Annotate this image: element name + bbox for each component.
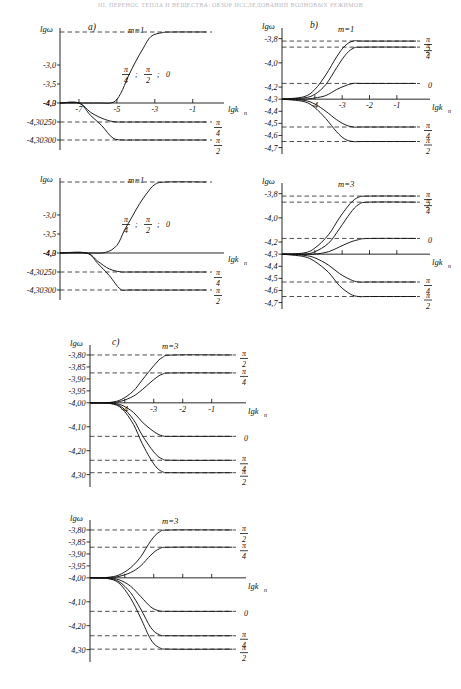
svg-text:π: π (426, 136, 431, 145)
svg-text:π: π (242, 524, 247, 533)
fraction-label: 0 (244, 609, 248, 618)
x-tick-label: -2 (366, 101, 373, 110)
svg-text:lgk: lgk (248, 581, 259, 591)
y-tick-label: 4,30 (71, 471, 85, 480)
fraction-label: π2 (214, 286, 222, 306)
fraction-label: π2 (424, 136, 432, 156)
svg-text:π: π (426, 276, 431, 285)
svg-text:n: n (448, 263, 451, 269)
y-tick-label: -4,7 (265, 299, 279, 308)
svg-text:π: π (146, 215, 151, 224)
panel-c-bottom: -3,80-3,85-3,90-3,95-4,00-4,10-4,204,30l… (42, 508, 277, 683)
svg-text:π: π (216, 286, 221, 295)
curve-1 (90, 530, 232, 578)
y-tick-label: -4,6 (265, 131, 279, 140)
svg-text:lgk: lgk (432, 102, 443, 112)
y-axis-title: lgω (70, 338, 83, 348)
svg-text:π: π (146, 65, 151, 74)
m-label: m=1 (128, 175, 144, 185)
svg-text:4: 4 (242, 378, 246, 387)
y-tick-label: -4,00 (68, 574, 85, 583)
fraction-label: π4 (240, 367, 248, 387)
y-axis-title: lgω (40, 24, 53, 34)
svg-text:2: 2 (242, 654, 246, 663)
y-tick-label: -4,0 (265, 59, 278, 68)
svg-text:2: 2 (426, 302, 430, 311)
y-axis-title: lgω (262, 21, 275, 31)
m-label: m=1 (128, 25, 144, 35)
fraction-label: π4 (214, 118, 222, 138)
panel-letter: b) (310, 20, 318, 31)
svg-text:π: π (426, 41, 431, 50)
curve-1 (282, 41, 416, 99)
svg-text:2: 2 (216, 147, 220, 156)
y-tick-label: -4,6 (265, 286, 279, 295)
x-tick-label: -5 (113, 105, 120, 114)
svg-text:π: π (242, 454, 247, 463)
svg-text:lgk: lgk (432, 257, 443, 267)
fraction-label: π4 (240, 541, 248, 561)
chart-b-top: -3,8-4,0-4,2-4,3-4,4-4,5-4,6-4,7lgωb)m=1… (238, 18, 456, 173)
y-tick-label: -3,80 (68, 351, 85, 360)
svg-text:π: π (242, 643, 247, 652)
y-tick-label: -3,85 (68, 363, 85, 372)
curve-3 (282, 238, 416, 254)
x-axis-title: lgkn (432, 102, 451, 114)
svg-text:4: 4 (124, 76, 128, 85)
x-tick-label: -1 (189, 105, 196, 114)
svg-text:2: 2 (146, 226, 150, 235)
y-tick-label: -3,5 (43, 80, 56, 89)
m-label: m=1 (338, 24, 354, 34)
svg-text:0: 0 (428, 236, 432, 245)
svg-text:π: π (216, 118, 221, 127)
x-tick-label: -3 (151, 105, 158, 114)
svg-text:4: 4 (426, 52, 430, 61)
fraction-label: π2 (144, 215, 152, 235)
y-tick-label: -4,2 (265, 83, 278, 92)
panel-c-top: -3,80-3,85-3,90-3,95-4,00-4,10-4,204,30l… (42, 333, 277, 508)
svg-text:2: 2 (146, 76, 150, 85)
y-tick-label: -4,4 (265, 262, 278, 271)
svg-text:π: π (242, 630, 247, 639)
fraction-label: 0 (244, 434, 248, 443)
chart-c-top: -3,80-3,85-3,90-3,95-4,00-4,10-4,204,30l… (42, 333, 277, 508)
chart-b-bottom: -3,8-4,0-4,2-4,3-4,4-4,5-4,6-4,7lgωm=3lg… (238, 173, 456, 328)
curve-4 (90, 578, 232, 636)
curve-1 (282, 196, 416, 254)
chart-c-bottom: -3,80-3,85-3,90-3,95-4,00-4,10-4,204,30l… (42, 508, 277, 683)
y-tick-label: 4,30 (71, 646, 85, 655)
svg-text:n: n (448, 108, 451, 114)
y-tick-label: -4,00 (68, 399, 85, 408)
panel-letter: c) (112, 337, 119, 348)
y-tick-label: -4,10 (68, 423, 85, 432)
x-tick-label: -3 (150, 405, 157, 414)
curve-upper (60, 32, 206, 103)
curve-2 (282, 202, 416, 254)
y-tick-label: -4,30300 (27, 286, 56, 295)
y-tick-label: -4,30250 (27, 268, 56, 277)
fraction-label: π4 (214, 268, 222, 288)
svg-text:π: π (242, 349, 247, 358)
figure-page: III. ПЕРЕНОС ТЕПЛА И ВЕЩЕСТВА: ОБЗОР ИСС… (0, 0, 461, 689)
x-tick-label: -3 (339, 101, 346, 110)
panel-b-bottom: -3,8-4,0-4,2-4,3-4,4-4,5-4,6-4,7lgωm=3lg… (238, 173, 456, 328)
curve-5 (90, 578, 232, 649)
y-tick-label: -3,90 (68, 375, 85, 384)
y-tick-label: -3,8 (265, 190, 278, 199)
fraction-label: π2 (424, 291, 432, 311)
curve-1 (90, 355, 232, 403)
svg-text:;: ; (135, 220, 138, 229)
fraction-label: π2 (214, 136, 222, 156)
y-tick-label: -4,5 (265, 119, 278, 128)
svg-text:π: π (426, 291, 431, 300)
y-axis-title: lgω (262, 176, 275, 186)
curve-lower-1 (60, 252, 206, 272)
y-tick-label: -4,20 (68, 622, 85, 631)
svg-text:π: π (124, 65, 129, 74)
curve-lower-2 (60, 252, 206, 290)
x-tick-label: -1 (393, 101, 400, 110)
svg-text:π: π (216, 136, 221, 145)
svg-text:4: 4 (124, 226, 128, 235)
svg-text:π: π (426, 121, 431, 130)
curve-5 (282, 254, 416, 297)
